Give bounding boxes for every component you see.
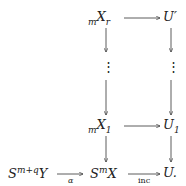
node-U1: U1	[163, 118, 180, 135]
node-Uprime: U′	[163, 10, 177, 23]
vdots-right: ⋮	[167, 60, 180, 73]
node-mXr: mXr	[88, 10, 110, 27]
label-inc: inc	[138, 177, 150, 185]
node-SmX: SmX	[90, 166, 117, 180]
vdots-left: ⋮	[102, 60, 115, 73]
label-alpha: α	[68, 177, 73, 185]
node-SmqY: Sm+qY	[8, 166, 47, 180]
node-U: U.	[163, 166, 177, 179]
node-mX1: mX1	[88, 118, 112, 135]
arrows-layer	[0, 0, 186, 186]
